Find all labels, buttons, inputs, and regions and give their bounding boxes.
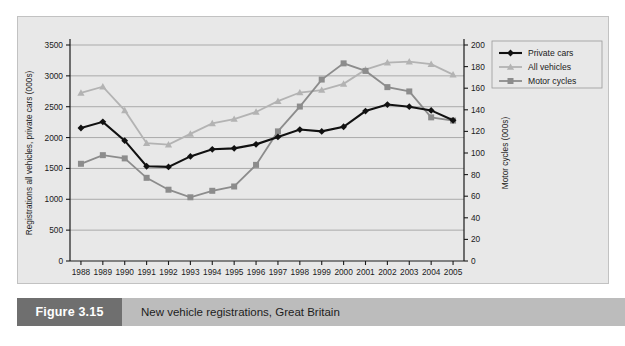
y-axis-left-tick-label: 2500 [45,102,64,112]
y-axis-left-tick-label: 1500 [45,163,64,173]
x-axis-tick-label: 2004 [422,267,441,277]
data-point-marker [428,107,435,114]
x-axis-tick-label: 2005 [444,267,463,277]
figure-number-badge: Figure 3.15 [17,298,122,326]
data-point-marker [253,141,260,148]
legend-label-all-vehicles: All vehicles [528,62,571,72]
x-axis-tick-label: 1990 [115,267,134,277]
x-axis-tick-label: 1992 [159,267,178,277]
legend-label-motor-cycles: Motor cycles [528,76,576,86]
x-axis-tick-label: 1993 [181,267,200,277]
data-point-marker [209,146,216,153]
data-point-marker [341,60,347,66]
x-axis-tick-label: 1996 [247,267,266,277]
y-axis-right-tick-label: 80 [471,170,481,180]
data-point-marker [165,163,172,170]
data-point-marker [78,161,84,167]
y-axis-right-tick-label: 40 [471,213,481,223]
x-axis-tick-label: 1991 [137,267,156,277]
data-point-marker [99,83,106,89]
y-axis-right-tick-label: 180 [471,62,485,72]
y-axis-right-tick-label: 100 [471,148,485,158]
figure-caption-text: New vehicle registrations, Great Britain [122,298,340,326]
data-point-marker [318,128,325,135]
x-axis-tick-label: 2001 [356,267,375,277]
data-point-marker [406,103,413,110]
y-axis-left-tick-label: 3500 [45,40,64,50]
chart-panel: 0500100015002000250030003500Registration… [17,16,609,284]
data-point-marker [296,126,303,133]
y-axis-left-tick-label: 500 [49,225,63,235]
line-chart: 0500100015002000250030003500Registration… [18,17,608,283]
y-axis-right-title: Motor cycles (000s) [500,117,510,190]
x-axis-tick-label: 2002 [378,267,397,277]
data-point-marker [275,128,281,134]
data-point-marker [231,183,237,189]
y-axis-left-tick-label: 2000 [45,133,64,143]
data-point-marker [363,68,369,74]
y-axis-right-tick-label: 160 [471,83,485,93]
x-axis-tick-label: 1997 [269,267,288,277]
x-axis-tick-label: 1994 [203,267,222,277]
x-axis-tick-label: 1999 [312,267,331,277]
y-axis-left-tick-label: 0 [58,256,63,266]
x-axis-tick-label: 1989 [94,267,113,277]
y-axis-right-tick-label: 120 [471,126,485,136]
data-point-marker [100,152,106,158]
data-point-marker [319,77,325,83]
series-line-motor-cycles [81,63,453,197]
data-point-marker [78,125,85,132]
series-line-private-cars [81,105,453,167]
data-point-marker [144,175,150,181]
data-point-marker [253,162,259,168]
x-axis-tick-label: 1995 [225,267,244,277]
x-axis-tick-label: 1998 [291,267,310,277]
series-line-all-vehicles [81,62,453,145]
data-point-marker [122,155,128,161]
y-axis-left-title: Registrations all vehicles, private cars… [24,70,34,235]
data-point-marker [231,145,238,152]
y-axis-left-tick-label: 3000 [45,71,64,81]
data-point-marker [508,78,514,84]
x-axis-tick-label: 1988 [72,267,91,277]
data-point-marker [384,84,390,90]
y-axis-right-tick-label: 20 [471,234,481,244]
figure-caption-bar: Figure 3.15 New vehicle registrations, G… [17,298,625,326]
y-axis-right-tick-label: 60 [471,191,481,201]
y-axis-right-tick-label: 0 [471,256,476,266]
x-axis-tick-label: 2003 [400,267,419,277]
y-axis-right-tick-label: 200 [471,40,485,50]
data-point-marker [166,187,172,193]
figure-container: 0500100015002000250030003500Registration… [0,0,625,346]
data-point-marker [428,114,434,120]
y-axis-left-tick-label: 1000 [45,194,64,204]
data-point-marker [406,88,412,94]
data-point-marker [209,188,215,194]
legend-label-private-cars: Private cars [528,48,573,58]
data-point-marker [187,194,193,200]
data-point-marker [297,104,303,110]
data-point-marker [187,153,194,160]
y-axis-right-tick-label: 140 [471,105,485,115]
x-axis-tick-label: 2000 [334,267,353,277]
